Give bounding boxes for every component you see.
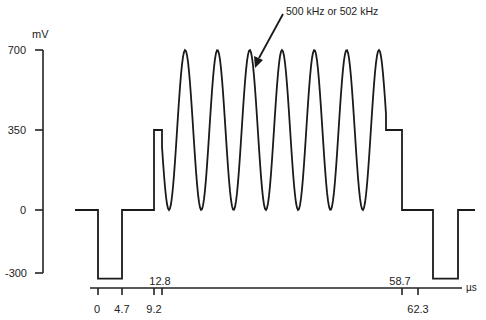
x-tick-62-3: 62.3 bbox=[407, 303, 428, 315]
x-tick-4-7: 4.7 bbox=[114, 303, 129, 315]
x-tick-0: 0 bbox=[94, 303, 100, 315]
y-tick-minus-300: -300 bbox=[0, 267, 27, 279]
x-tick-9-2: 9.2 bbox=[146, 303, 161, 315]
frequency-annotation: 500 kHz or 502 kHz bbox=[286, 5, 378, 17]
x-tick-58-7: 58.7 bbox=[389, 275, 410, 287]
y-tick-0: 0 bbox=[0, 204, 26, 216]
y-unit-label: mV bbox=[32, 28, 49, 40]
y-tick-700: 700 bbox=[0, 44, 26, 56]
waveform-line bbox=[75, 50, 475, 279]
x-axis bbox=[90, 288, 462, 295]
x-tick-12-8: 12.8 bbox=[149, 275, 170, 287]
x-unit-label: µs bbox=[466, 282, 477, 294]
y-tick-350: 350 bbox=[0, 124, 26, 136]
y-axis bbox=[35, 50, 43, 273]
waveform-chart bbox=[0, 0, 486, 320]
